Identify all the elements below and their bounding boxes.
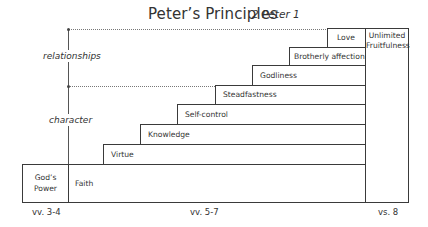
- step-faith: Faith: [68, 164, 366, 203]
- verses-3-4-label: vv. 3-4: [32, 207, 61, 217]
- step-brotherly-affection: Brotherly affection: [289, 47, 366, 66]
- fruitfulness-line1: Unlimited: [366, 31, 408, 41]
- character-label: character: [49, 114, 92, 126]
- step-label: Faith: [75, 179, 93, 188]
- step-self-control: Self-control: [177, 104, 366, 125]
- step-godliness: Godliness: [252, 65, 366, 86]
- fruitfulness-line2: Fruitfulness: [366, 41, 408, 51]
- middle-arrow-marker: [67, 85, 70, 88]
- step-knowledge: Knowledge: [140, 124, 366, 145]
- verse-8-label: vs. 8: [378, 207, 398, 217]
- step-label: Brotherly affection: [294, 52, 365, 61]
- gods-power-line2: Power: [23, 184, 68, 194]
- step-label: Knowledge: [148, 130, 190, 139]
- step-steadfastness: Steadfastness: [215, 85, 366, 105]
- scripture-reference: 2 Peter 1: [252, 8, 300, 20]
- relationships-label: relationships: [43, 50, 101, 62]
- gods-power-box: God’s Power: [22, 164, 69, 203]
- gods-power-line1: God’s: [23, 173, 68, 183]
- top-guide-line: [68, 29, 326, 30]
- step-label: Self-control: [185, 110, 228, 119]
- step-virtue: Virtue: [103, 144, 366, 165]
- step-label: Love: [337, 33, 355, 42]
- verses-5-7-label: vv. 5-7: [190, 207, 219, 217]
- step-label: Virtue: [111, 150, 134, 159]
- step-love: Love: [327, 28, 366, 48]
- step-label: Godliness: [260, 71, 297, 80]
- step-label: Steadfastness: [223, 90, 277, 99]
- unlimited-fruitfulness-box: Unlimited Fruitfulness: [365, 28, 409, 203]
- top-arrow-marker: [67, 28, 70, 31]
- middle-guide-line: [68, 86, 215, 87]
